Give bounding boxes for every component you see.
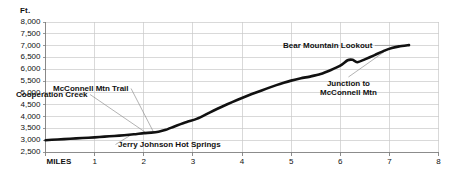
y-axis-tick-label: 4,000 bbox=[2, 112, 41, 121]
annotation-junction-to-mcconnell-mtn: Junction toMcConnell Mtn bbox=[320, 79, 377, 97]
y-axis-tick-label: 3,500 bbox=[2, 123, 41, 132]
x-axis-tick-label: 8 bbox=[425, 157, 449, 166]
annotation-mcconnell-mtn-trail: McConnell Mtn Trail bbox=[53, 84, 129, 93]
leader-line-junction-to-mcconnell-mtn bbox=[348, 50, 386, 77]
x-axis-tick-label: 6 bbox=[326, 157, 354, 166]
y-axis-tick-label: 5,000 bbox=[2, 88, 41, 97]
annotation-junction-to-mcconnell-mtn-line1: Junction to bbox=[320, 79, 377, 88]
y-axis-tick-label: 7,000 bbox=[2, 41, 41, 50]
y-axis-tick-label: 4,500 bbox=[2, 100, 41, 109]
x-axis-tick-label: 4 bbox=[228, 157, 256, 166]
y-axis-tick-label: 7,500 bbox=[2, 29, 41, 38]
x-axis-tick-label: 3 bbox=[179, 157, 207, 166]
x-axis-tick-label: MILES bbox=[47, 157, 72, 166]
annotation-bear-mountain-lookout: Bear Mountain Lookout bbox=[283, 41, 372, 50]
y-axis-tick-label: 3,000 bbox=[2, 135, 41, 144]
x-axis-tick-label: 5 bbox=[277, 157, 305, 166]
y-axis-tick-label: 6,500 bbox=[2, 52, 41, 61]
x-axis-tick-label: 2 bbox=[130, 157, 158, 166]
x-axis-tick-label: 1 bbox=[81, 157, 109, 166]
leader-line-mcconnell-mtn-trail bbox=[131, 89, 154, 133]
y-axis-tick-label: 8,000 bbox=[2, 17, 41, 26]
annotation-junction-to-mcconnell-mtn-line2: McConnell Mtn bbox=[320, 88, 377, 97]
y-axis-tick-label: 6,000 bbox=[2, 64, 41, 73]
y-axis-unit-label: Ft. bbox=[20, 6, 30, 15]
x-axis-tick-label: 7 bbox=[375, 157, 403, 166]
y-axis-tick-label: 5,500 bbox=[2, 76, 41, 85]
annotation-jerry-johnson-hot-springs: Jerry Johnson Hot Springs bbox=[118, 140, 221, 149]
y-axis-tick-label: 2,500 bbox=[2, 147, 41, 156]
elevation-profile-chart: Cooperation CreekMcConnell Mtn TrailJerr… bbox=[0, 0, 449, 180]
leader-line-cooperation-creek bbox=[90, 95, 146, 133]
